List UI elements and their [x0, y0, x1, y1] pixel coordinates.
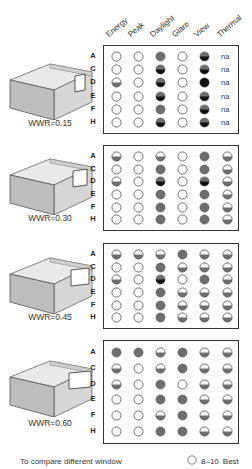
row-label-d: D — [88, 176, 98, 185]
row-label-d: D — [88, 274, 98, 283]
half-gray-circle-icon — [222, 189, 233, 200]
gray-black-circle-icon — [199, 104, 210, 115]
empty-circle-icon — [133, 151, 144, 162]
half-gray-circle-icon — [199, 426, 210, 437]
empty-circle-icon — [177, 104, 188, 115]
gray-circle-icon — [155, 300, 166, 311]
gray-black-circle-icon — [155, 176, 166, 187]
empty-circle-icon — [133, 51, 144, 62]
empty-circle-icon — [111, 51, 122, 62]
empty-circle-icon — [177, 51, 188, 62]
rating-grid — [103, 243, 239, 329]
column-header-peak: Peak — [126, 20, 146, 39]
half-gray-circle-icon — [222, 151, 233, 162]
black-circle-icon — [199, 77, 210, 88]
row-label-f: F — [88, 410, 98, 419]
half-gray-circle-icon — [222, 176, 233, 187]
empty-circle-icon — [133, 379, 144, 390]
half-gray-circle-icon — [199, 347, 210, 358]
gray-circle-icon — [155, 426, 166, 437]
na-value: na — [221, 52, 229, 61]
gray-circle-icon — [155, 262, 166, 273]
empty-circle-icon — [133, 394, 144, 405]
footer-text: To compare different window — [20, 457, 122, 466]
half-gray-circle-icon — [155, 249, 166, 260]
rating-grid — [103, 145, 239, 231]
empty-circle-icon — [177, 379, 188, 390]
half-gray-circle-icon — [111, 77, 122, 88]
half-gray-circle-icon — [222, 164, 233, 175]
half-gray-circle-icon — [222, 426, 233, 437]
row-label-f: F — [88, 300, 98, 309]
empty-circle-icon — [111, 64, 122, 75]
wwr-label: WWR=0.30 — [0, 213, 100, 223]
na-value: na — [221, 65, 229, 74]
row-label-f: F — [88, 104, 98, 113]
empty-circle-icon — [177, 151, 188, 162]
empty-circle-icon — [111, 202, 122, 213]
empty-circle-icon — [111, 262, 122, 273]
row-label-e: E — [88, 189, 98, 198]
row-label-d: D — [88, 77, 98, 86]
empty-circle-icon — [111, 410, 122, 421]
half-gray-circle-icon — [222, 249, 233, 260]
row-label-f: F — [88, 202, 98, 211]
empty-circle-icon — [133, 202, 144, 213]
empty-circle-icon — [177, 202, 188, 213]
half-gray-circle-icon — [222, 312, 233, 323]
gray-circle-icon — [199, 164, 210, 175]
empty-circle-icon — [111, 312, 122, 323]
empty-circle-icon — [177, 117, 188, 128]
empty-circle-icon — [133, 91, 144, 102]
empty-circle-icon — [133, 410, 144, 421]
empty-circle-icon — [133, 262, 144, 273]
na-value: na — [221, 118, 229, 127]
gray-black-circle-icon — [199, 91, 210, 102]
gray-circle-icon — [199, 189, 210, 200]
empty-circle-icon — [133, 117, 144, 128]
empty-circle-icon — [111, 91, 122, 102]
empty-circle-icon — [177, 64, 188, 75]
gray-circle-icon — [177, 394, 188, 405]
half-gray-circle-icon — [199, 300, 210, 311]
empty-circle-icon — [133, 104, 144, 115]
empty-circle-icon — [111, 189, 122, 200]
row-label-c: C — [88, 64, 98, 73]
empty-circle-icon — [133, 189, 144, 200]
na-value: na — [221, 78, 229, 87]
gray-circle-icon — [155, 312, 166, 323]
half-gray-circle-icon — [177, 312, 188, 323]
gray-circle-icon — [177, 347, 188, 358]
column-headers: Energy Peak Daylight Glare View Thermal — [0, 0, 252, 44]
row-label-a: A — [88, 151, 98, 160]
half-gray-circle-icon — [199, 312, 210, 323]
empty-circle-icon — [133, 64, 144, 75]
half-gray-circle-icon — [177, 287, 188, 298]
gray-black-circle-icon — [199, 51, 210, 62]
half-gray-circle-icon — [177, 262, 188, 273]
half-gray-circle-icon — [199, 379, 210, 390]
empty-circle-icon — [133, 274, 144, 285]
half-gray-circle-icon — [222, 202, 233, 213]
gray-circle-icon — [155, 164, 166, 175]
column-header-thermal: Thermal — [215, 13, 243, 39]
row-label-h: H — [88, 214, 98, 223]
half-gray-circle-icon — [177, 300, 188, 311]
empty-circle-icon — [111, 300, 122, 311]
gray-circle-icon — [177, 363, 188, 374]
empty-circle-icon — [133, 214, 144, 225]
half-gray-circle-icon — [111, 379, 122, 390]
half-gray-circle-icon — [199, 394, 210, 405]
gray-circle-icon — [155, 202, 166, 213]
empty-circle-icon — [133, 176, 144, 187]
na-value: na — [221, 105, 229, 114]
gray-circle-icon — [199, 274, 210, 285]
gray-circle-icon — [155, 104, 166, 115]
half-gray-circle-icon — [222, 410, 233, 421]
empty-circle-icon — [133, 300, 144, 311]
row-label-h: H — [88, 312, 98, 321]
row-label-e: E — [88, 394, 98, 403]
half-gray-circle-icon — [199, 262, 210, 273]
half-gray-circle-icon — [111, 274, 122, 285]
half-gray-circle-icon — [222, 274, 233, 285]
